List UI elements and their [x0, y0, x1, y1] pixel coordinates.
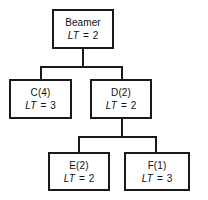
node-e[interactable]: E(2)LT = 2 — [48, 152, 110, 191]
connector-f-stem — [155, 136, 157, 153]
hierarchy-diagram: BeamerLT = 2C(4)LT = 3D(2)LT = 2E(2)LT =… — [0, 0, 208, 200]
equals-sign: = — [78, 173, 86, 184]
node-c[interactable]: C(4)LT = 3 — [9, 79, 72, 119]
lead-time-abbrev: LT — [25, 100, 37, 111]
node-e-label: E(2) — [69, 159, 88, 172]
node-d[interactable]: D(2)LT = 2 — [90, 79, 152, 119]
node-f[interactable]: F(1)LT = 3 — [124, 152, 190, 191]
lead-time-value: 2 — [131, 100, 137, 111]
lead-time-value: 3 — [50, 100, 56, 111]
connector-level1-bus — [40, 66, 123, 68]
lead-time-abbrev: LT — [106, 100, 118, 111]
node-beamer[interactable]: BeamerLT = 2 — [52, 9, 114, 49]
node-d-label: D(2) — [111, 86, 131, 99]
connector-e-stem — [78, 136, 80, 153]
node-f-lead-time: LT = 3 — [142, 172, 173, 185]
node-c-label: C(4) — [31, 86, 51, 99]
node-beamer-label: Beamer — [65, 16, 101, 29]
lead-time-abbrev: LT — [64, 173, 76, 184]
equals-sign: = — [82, 30, 90, 41]
lead-time-value: 3 — [167, 173, 173, 184]
connector-d-stem — [121, 66, 123, 80]
equals-sign: = — [120, 100, 128, 111]
connector-beamer-stem — [82, 49, 84, 67]
equals-sign: = — [156, 173, 164, 184]
node-f-label: F(1) — [148, 159, 167, 172]
connector-c-stem — [40, 66, 42, 80]
lead-time-abbrev: LT — [68, 30, 80, 41]
connector-d-down-stem — [121, 119, 123, 136]
equals-sign: = — [40, 100, 48, 111]
node-e-lead-time: LT = 2 — [64, 172, 95, 185]
lead-time-abbrev: LT — [142, 173, 154, 184]
lead-time-value: 2 — [93, 30, 99, 41]
node-c-lead-time: LT = 3 — [25, 99, 56, 112]
node-d-lead-time: LT = 2 — [106, 99, 137, 112]
lead-time-value: 2 — [89, 173, 95, 184]
connector-level2-bus — [78, 136, 157, 138]
node-beamer-lead-time: LT = 2 — [68, 29, 99, 42]
